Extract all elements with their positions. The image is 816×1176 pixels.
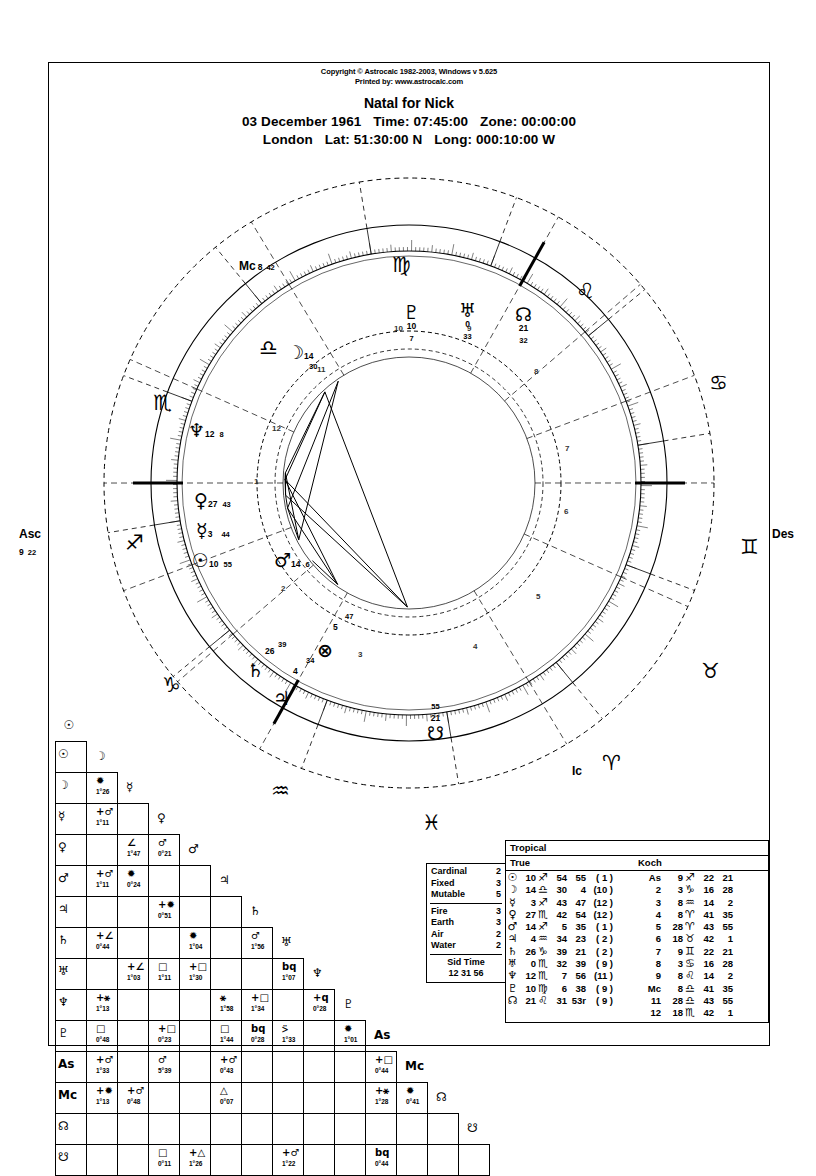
- house-cusp-row: As9♐2221: [639, 872, 764, 884]
- birth-zone: Zone: 00:00:00: [480, 114, 576, 129]
- element-value-fire: 3: [496, 906, 501, 918]
- aspect-cell: +♂1°33: [87, 1052, 118, 1083]
- planet-house: ( 2 ): [586, 946, 613, 958]
- house-second: 28: [714, 958, 733, 970]
- aspect-row-label-13: ☋: [56, 1145, 87, 1176]
- house-sign-glyph: ♑: [683, 884, 697, 896]
- planet-glyph: ☽: [506, 884, 519, 896]
- planet-second: 39: [567, 958, 586, 970]
- aspect-cell: ✹1°26: [87, 773, 118, 804]
- asc-marker: Asc 922: [19, 528, 41, 558]
- house-system-header: Koch: [638, 857, 662, 869]
- planet-position-row: ♆12♏756(11 ): [506, 970, 639, 982]
- planet-sign-glyph: ♌: [536, 995, 550, 1007]
- planet-house: ( 1 ): [586, 872, 613, 884]
- house-second: 2: [714, 897, 733, 909]
- sign-virgo: ♍: [392, 255, 411, 276]
- aspect-symbol: ✹: [189, 930, 197, 941]
- house-degree: 18: [666, 1007, 683, 1019]
- element-label-fire: Fire: [431, 906, 448, 918]
- modality-row-cardinal: Cardinal 2: [427, 866, 505, 878]
- modality-label-mutable: Mutable: [431, 889, 465, 901]
- house-number-11: 11: [317, 366, 325, 374]
- aspect-orb: 1°11: [96, 881, 109, 888]
- modality-label-cardinal: Cardinal: [431, 866, 467, 878]
- ic-label: Ic: [572, 765, 582, 777]
- aspect-symbol: ♂: [158, 837, 167, 848]
- south-node-minute: 55: [427, 703, 444, 711]
- house-minute: 16: [697, 958, 714, 970]
- aspect-row-label-10: As: [56, 1052, 87, 1083]
- aspect-cell: [87, 959, 118, 990]
- venus-minute: 43: [222, 500, 230, 509]
- asc-label: Asc: [19, 528, 41, 540]
- house-degree: 18: [666, 933, 683, 945]
- moon-degree: 14: [304, 351, 313, 361]
- aspect-row-glyph: ☊: [58, 1119, 69, 1133]
- house-number-12: 12: [272, 425, 281, 433]
- aspect-orb: 1°11: [158, 974, 171, 981]
- aspect-orb: 5°39: [158, 1067, 171, 1074]
- planet-house: ( 2 ): [586, 933, 613, 945]
- aspect-cell: +✹1°13: [87, 1083, 118, 1114]
- part-of-fortune-glyph: ⊗: [317, 639, 333, 661]
- aspect-orb: 0°44: [96, 943, 109, 950]
- birth-longitude: Long: 000:10:00 W: [434, 132, 555, 147]
- planet-second: 4: [567, 884, 586, 896]
- aspect-col-label-4: ♂: [180, 835, 211, 866]
- des-label: Des: [772, 528, 794, 540]
- aspect-orb: 0°21: [158, 850, 171, 857]
- aspect-row-label-12: ☊: [56, 1114, 87, 1145]
- planet-north-node: ☊ 21 32: [515, 305, 532, 344]
- aspect-col-glyph: ♇: [343, 997, 354, 1011]
- planet-sign-glyph: ♒: [536, 933, 550, 945]
- aspect-col-label-8: ♆: [304, 959, 335, 990]
- aspect-cell: +□1°34: [242, 990, 273, 1021]
- aspect-cell: bq0°44: [366, 1145, 397, 1176]
- aspect-row-label-11: Mc: [56, 1083, 87, 1114]
- planet-second: 56: [567, 970, 586, 982]
- modality-label-fixed: Fixed: [431, 878, 455, 890]
- planet-glyph: ♃: [506, 933, 519, 945]
- planet-house: (12 ): [586, 897, 613, 909]
- planet-minute: 43: [550, 897, 567, 909]
- aspect-symbol: □: [96, 1023, 105, 1034]
- aspect-row-glyph: ♇: [58, 1026, 69, 1040]
- neptune-glyph: ♆: [188, 419, 205, 441]
- modality-row-mutable: Mutable 5: [427, 889, 505, 901]
- aspect-symbol: □: [158, 1147, 167, 1158]
- positions-table: Tropical True Koch ☉10♐5455( 1 )☽14♎304(…: [505, 840, 769, 1023]
- aspect-cell: [180, 897, 211, 928]
- planet-pluto: ♇ 10 7: [403, 303, 420, 342]
- planet-position-row: ♃4♒3423( 2 ): [506, 933, 639, 945]
- house-number-5: 5: [536, 593, 540, 601]
- planet-second: 55: [567, 872, 586, 884]
- copyright-line: Copyright © Astrocalc 1982-2003, Windows…: [49, 67, 769, 77]
- aspect-orb: 1°22: [282, 1160, 295, 1167]
- aspect-cell: [335, 1114, 366, 1145]
- aspect-symbol: □: [220, 1023, 229, 1034]
- house-second: 55: [714, 921, 733, 933]
- sign-sagittarius: ♐: [125, 533, 144, 554]
- aspect-symbol: bq: [282, 961, 296, 972]
- planet-mercury: ☿344: [196, 521, 230, 540]
- planet-house: ( 9 ): [586, 995, 613, 1007]
- planet-moon: ☽14 30: [287, 343, 317, 371]
- aspect-cell: [273, 990, 304, 1021]
- house-degree: 9: [666, 946, 683, 958]
- planet-minute: 54: [550, 872, 567, 884]
- aspect-col-label-6: ♄: [242, 897, 273, 928]
- aspect-cell: +♂0°48: [118, 1083, 149, 1114]
- mars-minute: 6: [306, 560, 310, 569]
- aspect-symbol: ♂: [251, 930, 260, 941]
- aspect-row-glyph: ☋: [58, 1150, 69, 1164]
- aspect-row-glyph: ♆: [58, 995, 69, 1009]
- pluto-minute: 7: [403, 335, 420, 343]
- aspect-orb: 1°33: [96, 1067, 109, 1074]
- aspect-cell: +⚹1°13: [87, 990, 118, 1021]
- aspect-symbol: +✹: [158, 899, 175, 910]
- house-minute: 43: [697, 995, 714, 1007]
- aspect-grid-row: ♇□0°48+□0°23□1°44bq0°28⍩1°33✹1°01As: [56, 1021, 521, 1052]
- aspect-cell: [211, 959, 242, 990]
- aspect-symbol: ∠: [127, 837, 136, 848]
